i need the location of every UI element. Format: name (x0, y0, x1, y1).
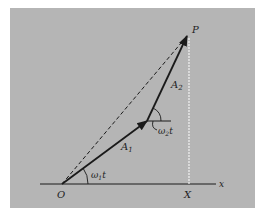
label-origin: O (57, 189, 65, 200)
diagram-background (10, 8, 255, 208)
phasor-addition-diagram: P A2 ω2t A1 ω1t O X x (0, 0, 259, 210)
label-x-axis: x (219, 179, 224, 189)
label-x-foot: X (183, 189, 192, 200)
label-p: P (191, 24, 199, 35)
